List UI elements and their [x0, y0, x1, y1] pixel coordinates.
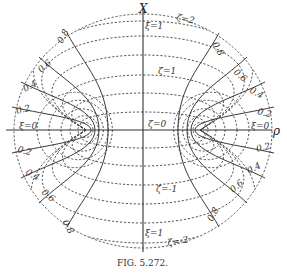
label-zeta-0: ζ=0: [148, 119, 166, 129]
label-zeta-2: ζ=2: [176, 12, 196, 26]
rho-axis-label: ρ: [272, 124, 280, 138]
label-zeta-1: ζ=1: [158, 66, 176, 76]
hyperbola-value-label: 0.4: [21, 78, 39, 94]
x-axis-label: X: [138, 2, 148, 16]
label-zeta-minus-1: ζ=-1: [156, 184, 177, 194]
label-zeta-minus-2: ζ=-2: [167, 234, 190, 248]
hyperbola-value-label: 0.8: [210, 40, 226, 58]
label-xi-1-bottom: ξ=1: [145, 228, 163, 238]
hyperbola-value-label: 0.8: [60, 218, 76, 236]
hyperbola-value-label: 0.6: [232, 67, 250, 84]
coordinate-diagram: X ρ ζ=2 ζ=1 ζ=0 ζ=-1 ζ=-2 ξ=1 ξ=1 ξ=0 ξ=…: [0, 0, 287, 276]
figure-caption: FIG. 5.272.: [117, 258, 168, 268]
hyperbola-value-label: 0.4: [245, 160, 263, 176]
hyperbola-value-label: 0.8: [55, 27, 71, 45]
hyperbola-value-label: 0.2: [15, 103, 32, 116]
hyperbola-value-label: 0.6: [228, 177, 246, 194]
hyperbola-value-labels: 0.20.20.20.20.40.40.40.40.60.60.60.60.80…: [15, 27, 273, 235]
label-xi-0-left: ξ=0: [19, 121, 37, 131]
hyperbola-value-label: 0.6: [36, 57, 54, 74]
hyperbola-value-label: 0.2: [257, 106, 274, 119]
hyperbola-value-label: 0.2: [17, 144, 34, 157]
label-xi-1-top: ξ=1: [145, 21, 163, 31]
label-xi-0-right: ξ=0: [251, 121, 269, 131]
